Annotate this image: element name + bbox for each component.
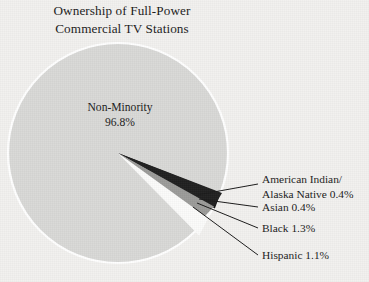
callout-label-american-indian: American Indian/ Alaska Native 0.4% xyxy=(262,172,353,201)
center-label-name: Non-Minority xyxy=(58,100,182,115)
chart-title: Ownership of Full-Power Commercial TV St… xyxy=(0,2,244,38)
callout-american-indian-line-2: Alaska Native 0.4% xyxy=(262,187,353,202)
chart-title-line-2: Commercial TV Stations xyxy=(0,20,244,38)
callout-american-indian-line-1: American Indian/ xyxy=(262,172,353,187)
callout-label-hispanic: Hispanic 1.1% xyxy=(262,248,329,263)
pie-center-label: Non-Minority 96.8% xyxy=(58,100,182,130)
callout-label-asian: Asian 0.4% xyxy=(262,200,315,215)
chart-title-line-1: Ownership of Full-Power xyxy=(0,2,244,20)
callout-label-black: Black 1.3% xyxy=(262,221,315,236)
center-label-value: 96.8% xyxy=(58,115,182,130)
pie-chart-graphic xyxy=(0,0,369,282)
